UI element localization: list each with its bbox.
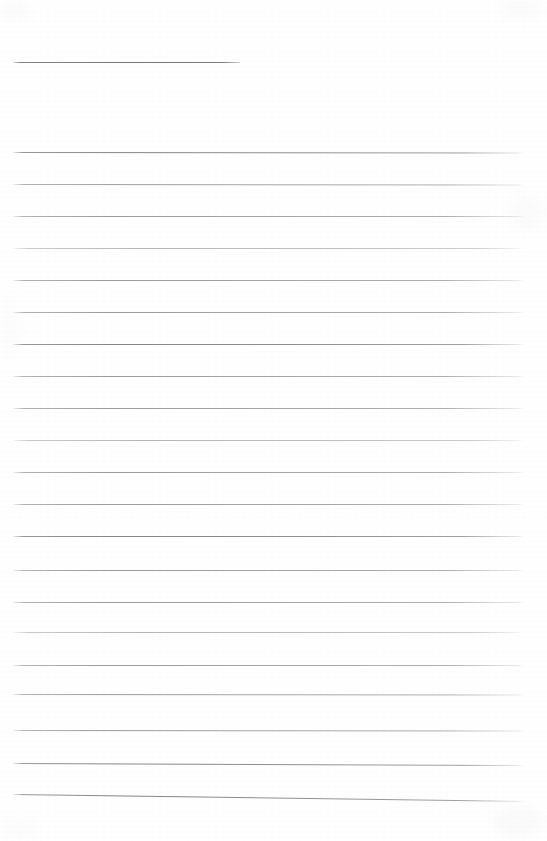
scanned-page — [0, 0, 547, 841]
rule-14 — [13, 570, 523, 571]
smudge-left-edge — [0, 300, 18, 360]
rule-16-ink — [13, 632, 523, 633]
smudge-mid-right — [508, 196, 544, 230]
rule-19-ink — [13, 730, 523, 732]
rule-12 — [13, 504, 523, 505]
rule-19 — [13, 730, 523, 732]
rule-14-ink — [13, 570, 523, 571]
smudge-top-right — [498, 2, 542, 18]
rule-06 — [13, 312, 523, 313]
paper-tone-overlay — [0, 0, 547, 841]
rule-21-ink — [13, 794, 523, 802]
rule-10 — [13, 440, 523, 441]
rule-11 — [13, 472, 523, 473]
rule-07-ink — [13, 344, 523, 345]
rule-10-ink — [13, 440, 523, 441]
rule-06-ink — [13, 312, 523, 313]
rule-01 — [13, 152, 523, 154]
rule-05-ink — [13, 280, 523, 281]
rule-17-ink — [13, 665, 523, 666]
rule-04-ink — [13, 248, 523, 249]
rule-17 — [13, 665, 523, 666]
rule-16 — [13, 632, 523, 633]
smudge-bottom-right — [492, 806, 544, 836]
rule-04 — [13, 248, 523, 249]
rule-09-ink — [13, 408, 523, 409]
rule-15 — [13, 602, 523, 603]
rule-11-ink — [13, 472, 523, 473]
rule-03-ink — [13, 216, 523, 217]
rule-01-ink — [13, 152, 523, 154]
rule-20 — [13, 763, 523, 766]
smudge-top-left — [2, 4, 28, 18]
rule-heading — [13, 62, 240, 63]
smudge-bottom-left — [0, 820, 40, 838]
rule-09 — [13, 408, 523, 409]
rule-13-ink — [13, 536, 523, 537]
rule-08-ink — [13, 376, 523, 377]
rule-02-ink — [13, 184, 523, 186]
rule-18-ink — [13, 694, 523, 696]
rule-heading-ink — [13, 62, 240, 63]
paper-grain-overlay — [0, 0, 547, 841]
rule-12-ink — [13, 504, 523, 505]
rule-03 — [13, 216, 523, 217]
rule-07 — [13, 344, 523, 345]
rule-05 — [13, 280, 523, 281]
rule-13 — [13, 536, 523, 537]
rule-08 — [13, 376, 523, 377]
rule-20-ink — [13, 763, 523, 766]
rule-02 — [13, 184, 523, 186]
rule-18 — [13, 694, 523, 696]
rule-15-ink — [13, 602, 523, 603]
rule-21 — [13, 794, 523, 802]
